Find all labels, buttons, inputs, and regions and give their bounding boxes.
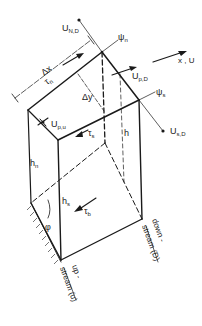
bottom-front-edge — [61, 219, 142, 260]
label-delta-x: Δx — [39, 63, 54, 78]
tau-n-arrow — [63, 55, 80, 65]
label-h: h — [124, 128, 129, 138]
u-s-d-line — [139, 100, 163, 131]
label-u-n-d: UN,D — [62, 23, 80, 34]
label-u-p-d: Up,D — [132, 71, 149, 82]
u-s-d-point — [161, 129, 164, 132]
label-phi: φ — [45, 222, 51, 232]
right-vertical-edge — [139, 100, 142, 219]
label-h-n: hn — [30, 158, 38, 169]
psi-n-line — [102, 40, 118, 52]
top-vertex-point — [101, 51, 104, 54]
label-tau-b: τb — [84, 206, 92, 217]
label-tau-n: τn — [42, 74, 54, 87]
label-u-p-u: Up,u — [51, 119, 66, 130]
label-psi-n: ψn — [118, 32, 128, 43]
u-p-u-point — [42, 121, 45, 124]
label-psi-s: ψs — [156, 87, 165, 98]
hidden-back-right-edge — [105, 143, 142, 219]
label-tau-s: τs — [88, 128, 95, 139]
front-vertical-edge — [58, 140, 61, 260]
hidden-back-vertical — [102, 52, 105, 143]
ground-hatching — [27, 206, 58, 264]
tau-b-arrowhead — [74, 205, 83, 212]
label-x-u: x , U — [178, 56, 195, 65]
phi-angle-arc — [48, 200, 50, 218]
tau-n-arrowhead — [76, 53, 84, 59]
u-n-d-line — [79, 20, 102, 52]
label-h-s: hs — [62, 196, 70, 207]
delta-x-tick-left — [12, 94, 18, 102]
control-volume-diagram: UN,D ψn x , U Δx τn Up,D Δy ψs Up,u τs h… — [0, 0, 202, 326]
diagram-svg: UN,D ψn x , U Δx τn Up,D Δy ψs Up,u τs h… — [0, 0, 202, 326]
label-delta-y: Δy — [82, 92, 93, 102]
tau-s-arrowhead — [75, 131, 83, 137]
left-vertical-edge — [28, 110, 31, 203]
psi-s-line — [139, 92, 155, 100]
u-n-d-point — [77, 18, 80, 21]
label-u-s-d: Us,D — [170, 126, 186, 137]
ground-line — [31, 203, 61, 262]
hidden-back-left-edge — [31, 143, 105, 203]
label-upstream-1: up - — [70, 264, 83, 280]
